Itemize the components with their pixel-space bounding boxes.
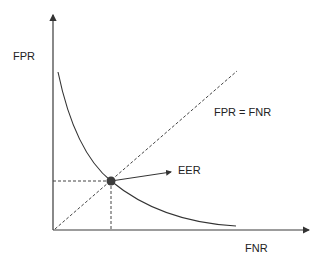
equal-error-diagonal <box>55 71 237 229</box>
y-axis-label: FPR <box>13 50 35 62</box>
eer-pointer-arrow <box>111 172 171 181</box>
x-axis-label: FNR <box>245 242 268 254</box>
eer-label: EER <box>178 164 201 176</box>
eer-diagram-canvas <box>0 0 323 266</box>
diagonal-label: FPR = FNR <box>214 106 271 118</box>
eer-point <box>107 177 116 186</box>
